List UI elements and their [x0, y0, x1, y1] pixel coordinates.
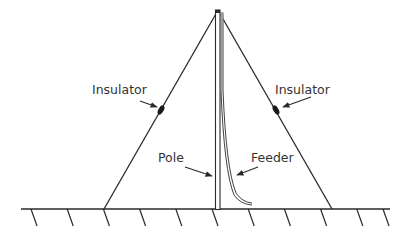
ground-hatch [176, 209, 182, 226]
label-insulator-right: Insulator [275, 82, 331, 97]
ground-hatch [284, 209, 290, 226]
ground-hatch [357, 209, 363, 226]
insulator-left [156, 104, 166, 115]
arrow-insulator-right [283, 97, 311, 107]
antenna-diagram: Insulator Insulator Pole Feeder [0, 0, 409, 243]
ground-hatch [248, 209, 254, 226]
arrow-pole [185, 167, 212, 176]
ground-hatch [321, 209, 327, 226]
ground-hatches [31, 209, 389, 226]
ground-hatch [67, 209, 73, 226]
arrow-feeder [237, 167, 258, 175]
ground-hatch [383, 209, 389, 226]
label-feeder: Feeder [251, 150, 295, 165]
ground-hatch [140, 209, 146, 226]
ground-hatch [103, 209, 109, 226]
label-pole: Pole [158, 150, 184, 165]
label-insulator-left: Insulator [92, 82, 148, 97]
pole [216, 10, 221, 210]
arrow-insulator-left [140, 101, 157, 107]
ground-hatch [31, 209, 37, 226]
ground-hatch [212, 209, 218, 226]
